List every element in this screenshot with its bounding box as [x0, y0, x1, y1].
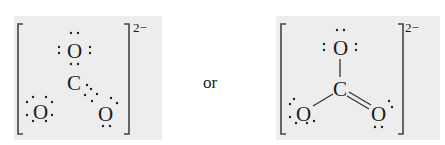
lewis-structures-diagram: 2− O C O O [0, 0, 445, 145]
or-connector-text: or [203, 73, 217, 93]
right-charge: 2− [405, 20, 419, 35]
left-charge: 2− [133, 20, 147, 35]
right-lewis-structure: 2− O C O O [281, 20, 419, 134]
right-atom-o-right: O [371, 102, 386, 126]
right-bracket-open [281, 24, 286, 134]
left-atom-o-right: O [98, 102, 113, 126]
left-lewis-structure: 2− O C O O [18, 20, 147, 134]
right-atom-o-top: O [333, 36, 348, 60]
right-atom-c: C [333, 77, 347, 101]
right-bracket-close [398, 24, 403, 134]
left-atom-o-top: O [67, 39, 82, 63]
left-bracket-open [18, 24, 23, 134]
left-bracket-close [124, 24, 129, 134]
bond-c-o-left [313, 94, 333, 106]
left-atom-c: C [67, 71, 81, 95]
right-atom-o-left: O [296, 102, 311, 126]
